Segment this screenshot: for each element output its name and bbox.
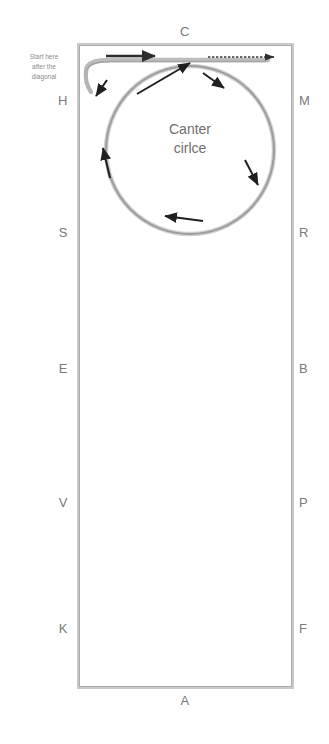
arena-letter-E: E bbox=[42, 362, 68, 375]
arena-letter-V: V bbox=[42, 496, 68, 509]
canter-circle-label: Canter cirlce bbox=[130, 120, 250, 158]
start-here-line-3: diagonal bbox=[13, 72, 75, 82]
arena-letter-P: P bbox=[299, 496, 325, 509]
arena-letter-C: C bbox=[165, 25, 205, 38]
arena-letter-B: B bbox=[299, 362, 325, 375]
start-here-line-2: after the bbox=[13, 62, 75, 72]
arena-letter-K: K bbox=[42, 622, 68, 635]
arena-letter-R: R bbox=[299, 226, 325, 239]
start-here-annotation: Start here after the diagonal bbox=[13, 52, 75, 82]
arena-letter-H: H bbox=[42, 94, 68, 107]
start-here-line-1: Start here bbox=[13, 52, 75, 62]
arena-letter-S: S bbox=[42, 226, 68, 239]
canter-circle-label-line-1: Canter bbox=[130, 120, 250, 139]
arena-letter-M: M bbox=[299, 94, 325, 107]
arena-letter-A: A bbox=[165, 694, 205, 707]
arena-letter-F: F bbox=[299, 622, 325, 635]
arena-diagram: C A H S E V K M R B P F Canter cirlce St… bbox=[0, 0, 329, 744]
canter-circle-label-line-2: cirlce bbox=[130, 139, 250, 158]
